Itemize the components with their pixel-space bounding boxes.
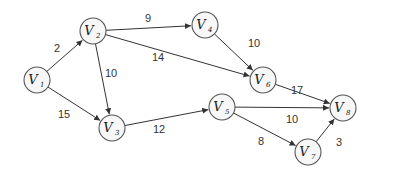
node-v1: V1 <box>24 67 50 93</box>
edge-v2-v4 <box>106 26 191 31</box>
edge-v1-v2 <box>47 40 83 71</box>
node-label: V <box>28 72 39 87</box>
edge-weight-label: 14 <box>152 51 164 63</box>
edge-weight-label: 10 <box>286 113 298 125</box>
edge-v1-v3 <box>48 87 100 120</box>
node-subscript: 3 <box>115 129 120 137</box>
nodes-layer: V1V2V3V4V5V6V7V8 <box>24 12 356 165</box>
edge-weight-label: 17 <box>291 84 303 96</box>
node-label: V <box>103 120 114 135</box>
edge-weight-label: 8 <box>258 135 264 147</box>
node-v6: V6 <box>250 67 276 93</box>
node-label: V <box>334 100 345 115</box>
node-v2: V2 <box>80 18 106 44</box>
node-subscript: 8 <box>346 109 351 117</box>
edge-v2-v3 <box>95 44 109 115</box>
node-label: V <box>299 144 310 159</box>
node-subscript: 4 <box>207 26 212 34</box>
node-label: V <box>254 72 265 87</box>
edge-weight-label: 10 <box>105 67 117 79</box>
node-v7: V7 <box>295 139 321 165</box>
edge-weight-label: 15 <box>58 108 70 120</box>
node-v3: V3 <box>99 115 125 141</box>
edge-v3-v5 <box>125 110 208 126</box>
edge-weight-label: 2 <box>54 42 60 54</box>
node-v8: V8 <box>330 95 356 121</box>
node-subscript: 2 <box>95 32 101 40</box>
node-subscript: 6 <box>266 81 271 89</box>
node-label: V <box>213 99 224 114</box>
node-v4: V4 <box>192 12 218 38</box>
node-label: V <box>196 17 207 32</box>
graph-svg: 215914101012171083 V1V2V3V4V5V6V7V8 <box>0 0 400 175</box>
node-v5: V5 <box>209 94 235 120</box>
node-subscript: 1 <box>40 81 44 89</box>
edge-weight-label: 12 <box>153 123 165 135</box>
edge-v7-v8 <box>316 119 334 142</box>
directed-weighted-graph: 215914101012171083 V1V2V3V4V5V6V7V8 <box>0 0 400 175</box>
node-label: V <box>84 23 95 38</box>
edge-weight-label: 10 <box>248 37 260 49</box>
edge-v5-v8 <box>235 107 329 108</box>
node-subscript: 7 <box>311 153 316 161</box>
node-subscript: 5 <box>225 108 230 116</box>
edge-v2-v6 <box>105 35 249 77</box>
edge-weight-label: 3 <box>336 136 342 148</box>
edge-weight-label: 9 <box>145 12 151 24</box>
